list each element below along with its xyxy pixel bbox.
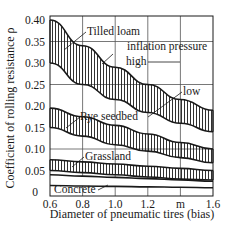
- label-low: low: [183, 85, 201, 97]
- y-tick-label: 0.30: [25, 57, 45, 69]
- y-tick-label: 0: [32, 186, 38, 198]
- y-tick-label: 0.15: [25, 122, 45, 134]
- rolling-resistance-chart: 00.050.100.150.200.250.300.350.40 0.60.8…: [0, 0, 232, 228]
- x-axis-title: Diameter of pneumatic tires (bias): [50, 207, 215, 221]
- y-tick-label: 0.25: [25, 79, 45, 91]
- label-tilled-loam: Tilled loam: [87, 25, 140, 37]
- label-rye-seedbed: Rye seedbed: [80, 110, 138, 123]
- y-tick-label: 0.20: [25, 100, 45, 112]
- y-tick-label: 0.40: [25, 14, 45, 26]
- label-concrete: Concrete: [54, 183, 96, 195]
- y-tick-label: 0.35: [25, 36, 45, 48]
- label-grassland: Grassland: [85, 150, 131, 162]
- label-high: high: [126, 55, 147, 68]
- y-tick-label: 0.10: [25, 143, 45, 155]
- y-tick-labels: 00.050.100.150.200.250.300.350.40: [25, 14, 45, 198]
- y-tick-label: 0.05: [25, 165, 45, 177]
- label-inflation-pressure: inflation pressure: [127, 40, 207, 53]
- y-axis-title: Coefficient of rolling resistance ρ: [3, 27, 17, 188]
